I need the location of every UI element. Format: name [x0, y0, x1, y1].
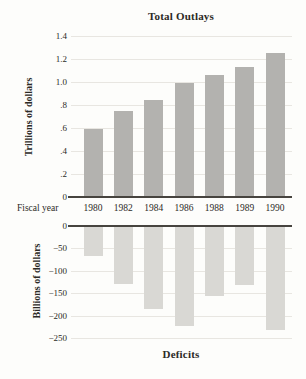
outlays-bar-1990	[266, 53, 285, 197]
deficits-ytick-label--50: −50	[33, 243, 67, 254]
outlays-zero-axis-line	[68, 196, 292, 198]
outlays-bar-1984	[144, 100, 163, 197]
deficits-bar-1980	[84, 227, 103, 256]
deficits-bar-1982	[114, 227, 133, 284]
outlays-bar-1982	[114, 111, 133, 197]
outlays-ytick-label-0.4: .4	[33, 146, 67, 157]
deficits-gridline--250	[71, 338, 292, 339]
outlays-gridline-1.2	[71, 59, 292, 60]
deficits-zero-axis-line	[68, 225, 292, 227]
outlays-gridline-1.4	[71, 36, 292, 37]
deficits-bar-1988	[205, 227, 224, 296]
fiscal-year-1989: 1989	[228, 203, 262, 213]
deficits-bar-1990	[266, 227, 285, 330]
outlays-bar-1986	[175, 83, 194, 197]
deficits-ytick-label--100: −100	[33, 266, 67, 277]
outlays-ytick-label-0.6: .6	[33, 123, 67, 134]
deficits-ytick-label-0: 0	[33, 221, 67, 232]
deficits-bar-1986	[175, 227, 194, 326]
outlays-bar-1989	[235, 67, 254, 197]
deficits-ytick-label--250: −250	[33, 333, 67, 344]
fiscal-year-1990: 1990	[258, 203, 292, 213]
fiscal-year-1980: 1980	[76, 203, 110, 213]
outlays-ytick-label-0: 0	[33, 192, 67, 203]
deficits-ytick-label--200: −200	[33, 311, 67, 322]
outlays-ytick-label-0.2: .2	[33, 169, 67, 180]
fiscal-year-1986: 1986	[167, 203, 201, 213]
fiscal-year-1982: 1982	[106, 203, 140, 213]
fiscal-year-1988: 1988	[197, 203, 231, 213]
outlays-ytick-label-0.8: .8	[33, 100, 67, 111]
deficits-bar-1984	[144, 227, 163, 310]
deficits-y-axis-label: Billions of dollars	[30, 221, 44, 341]
outlays-ytick-label-1.4: 1.4	[33, 31, 67, 42]
outlays-ytick-label-1.2: 1.2	[33, 54, 67, 65]
fiscal-year-label: Fiscal year	[17, 203, 58, 213]
budget-figure: Total Outlays Trillions of dollars Fisca…	[0, 0, 306, 379]
deficits-bar-1989	[235, 227, 254, 285]
deficits-chart-title: Deficits	[70, 348, 292, 360]
outlays-chart-title: Total Outlays	[70, 10, 292, 22]
outlays-ytick-label-1: 1.0	[33, 77, 67, 88]
deficits-ytick-label--150: −150	[33, 288, 67, 299]
fiscal-year-1984: 1984	[137, 203, 171, 213]
outlays-bar-1980	[84, 129, 103, 197]
outlays-bar-1988	[205, 75, 224, 197]
outlays-y-axis-label: Trillions of dollars	[22, 57, 36, 177]
